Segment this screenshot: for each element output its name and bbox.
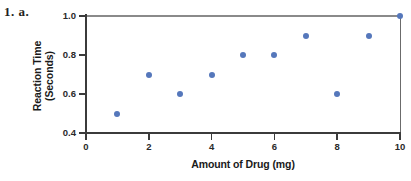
data-point bbox=[303, 33, 309, 39]
data-point bbox=[397, 13, 403, 19]
y-tick bbox=[79, 93, 85, 95]
plot-frame-right bbox=[400, 15, 402, 134]
y-axis-title-line-1: Reaction Time bbox=[31, 41, 43, 111]
y-axis-title-line-2: (Seconds) bbox=[43, 41, 55, 111]
data-point bbox=[240, 52, 246, 58]
y-tick bbox=[79, 132, 85, 134]
x-tick-label: 2 bbox=[134, 141, 164, 154]
x-tick bbox=[274, 134, 276, 140]
x-tick-label: 4 bbox=[197, 141, 227, 154]
x-tick bbox=[148, 134, 150, 140]
problem-label: 1. a. bbox=[4, 4, 29, 20]
x-axis-line bbox=[85, 132, 401, 134]
y-axis-line bbox=[85, 14, 87, 134]
x-tick bbox=[211, 134, 213, 140]
scatter-plot-figure: 1. a. 0.40.60.81.0 0246810 Amount of Dru… bbox=[0, 0, 411, 181]
y-tick-label: 1.0 bbox=[52, 10, 76, 22]
data-point bbox=[366, 33, 372, 39]
x-tick-label: 10 bbox=[385, 141, 411, 154]
x-tick-label: 8 bbox=[322, 141, 352, 154]
plot-frame-top bbox=[86, 15, 401, 17]
y-tick bbox=[79, 15, 85, 17]
x-tick bbox=[336, 134, 338, 140]
x-tick-label: 6 bbox=[259, 141, 289, 154]
data-point bbox=[209, 72, 215, 78]
x-tick-label: 0 bbox=[71, 141, 101, 154]
plot-area bbox=[86, 16, 400, 133]
x-tick bbox=[399, 134, 401, 140]
x-axis-title: Amount of Drug (mg) bbox=[86, 158, 400, 170]
y-tick-label: 0.4 bbox=[52, 127, 76, 139]
x-tick bbox=[85, 134, 87, 140]
data-point bbox=[114, 111, 120, 117]
data-point bbox=[146, 72, 152, 78]
y-tick bbox=[79, 54, 85, 56]
y-axis-title: Reaction Time (Seconds) bbox=[28, 30, 58, 122]
